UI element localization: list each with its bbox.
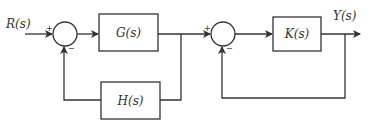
summing-junction-2 [211, 22, 235, 46]
minus-sign-2: − [226, 44, 233, 53]
plus-sign-1: + [46, 24, 53, 33]
block-g-label: G(s) [116, 26, 141, 40]
summing-junction-1 [53, 22, 77, 46]
input-label: R(s) [5, 17, 31, 31]
unity-feedback-path [222, 34, 345, 98]
feedback-path-h-in [160, 34, 181, 100]
minus-sign-1: − [68, 44, 75, 53]
feedback-path-h-out [64, 47, 101, 100]
block-h-label: H(s) [117, 94, 144, 108]
block-k-label: K(s) [284, 27, 310, 41]
block-diagram: R(s) Y(s) G(s) H(s) K(s) + − + − [0, 0, 377, 128]
output-label: Y(s) [333, 9, 357, 23]
plus-sign-2: + [204, 24, 211, 33]
